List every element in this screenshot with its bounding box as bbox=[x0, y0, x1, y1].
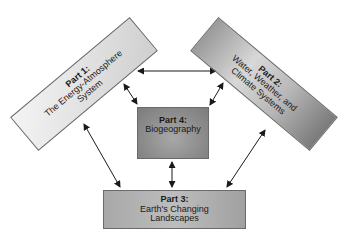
node-label-line: Biogeography bbox=[145, 125, 201, 134]
arrow-part2-part4 bbox=[210, 83, 223, 105]
node-part4-biogeography: Part 4: Biogeography bbox=[137, 107, 209, 159]
node-label-line: Landscapes bbox=[150, 214, 199, 223]
arrow-part2-part3 bbox=[227, 130, 265, 187]
arrow-part1-part3 bbox=[84, 124, 120, 187]
arrow-part1-part4 bbox=[124, 84, 137, 104]
node-part3-earths-changing-landscapes: Part 3: Earth's Changing Landscapes bbox=[103, 190, 246, 229]
